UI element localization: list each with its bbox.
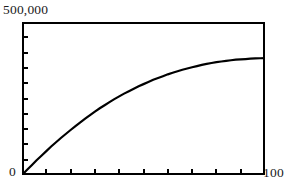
x-axis-ticks xyxy=(46,169,265,174)
plot-area xyxy=(22,22,265,175)
y-axis-min-label: 0 xyxy=(9,165,16,179)
x-axis-max-label: 100 xyxy=(263,166,284,180)
y-axis-max-label: 500,000 xyxy=(3,3,48,17)
data-series-line xyxy=(22,58,265,175)
y-axis-ticks xyxy=(23,22,28,160)
chart-figure: 500,000 0 100 xyxy=(0,0,284,190)
